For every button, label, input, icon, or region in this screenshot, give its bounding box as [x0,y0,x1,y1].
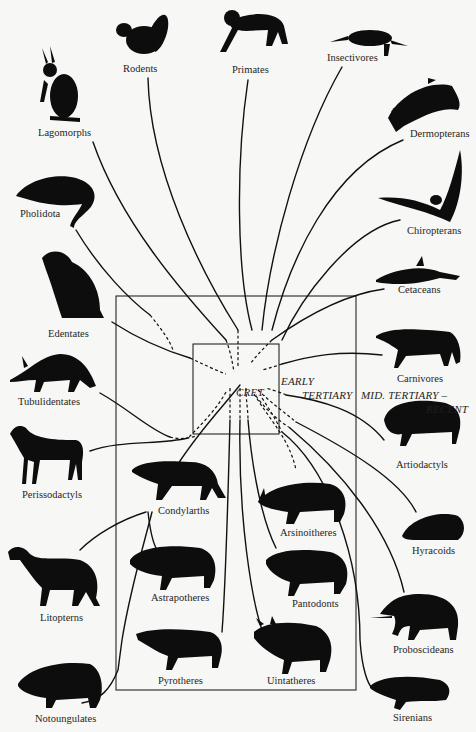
lagomorph-silhouette [40,46,80,122]
label-tubulidentates: Tubulidentates [18,396,80,407]
mammal-radiation-diagram: CRET. EARLY TERTIARY MID. TERTIARY – REC… [0,0,476,732]
label-carnivores: Carnivores [397,373,443,384]
primate-silhouette [220,10,288,52]
label-hyracoids: Hyracoids [412,545,455,556]
dermopteran-silhouette [388,78,460,132]
branch-dermopterans [272,140,403,330]
branch-primates [239,80,252,330]
label-pantodonts: Pantodonts [292,598,339,609]
era-label-early-tertiary-1: EARLY [281,375,314,387]
carnivore-silhouette [376,329,461,368]
label-edentates: Edentates [48,328,89,339]
label-insectivores: Insectivores [327,52,378,63]
label-litopterns: Litopterns [40,612,83,623]
label-sirenians: Sirenians [393,712,432,723]
sirenian-silhouette [370,677,449,710]
litoptern-silhouette [8,547,100,606]
arsinoithere-silhouette [258,483,345,524]
hyracoid-silhouette [402,514,464,540]
branch-astrapotheres [148,512,156,548]
chiropteran-silhouette [378,150,462,222]
label-rodents: Rodents [123,63,157,74]
cetacean-silhouette [376,256,460,284]
label-arsinoitheres: Arsinoitheres [280,527,337,538]
era-label-cretaceous: CRET. [236,386,266,398]
label-condylarths: Condylarths [158,505,209,516]
label-lagomorphs: Lagomorphs [38,127,91,138]
pantodont-silhouette [266,550,347,596]
branch-carnivores [282,353,382,364]
label-perissodactyls: Perissodactyls [22,489,82,500]
astrapothere-silhouette [130,546,215,590]
notoungulate-silhouette [18,663,102,708]
era-label-early-tertiary-2: TERTIARY [302,389,352,401]
label-chiropterans: Chiropterans [407,225,461,236]
branch-insectivores [262,67,342,330]
branch-rodents [148,78,238,330]
proboscidean-silhouette [370,594,458,640]
label-notoungulates: Notoungulates [35,713,96,724]
dash-pholidota [150,315,174,353]
perissodactyl-silhouette [10,426,83,484]
era-label-mid-tertiary-1: MID. TERTIARY – [361,389,447,401]
label-proboscideans: Proboscideans [393,644,454,655]
era-label-mid-tertiary-2: RECENT [426,403,468,415]
label-cetaceans: Cetaceans [398,284,441,295]
label-dermopterans: Dermopterans [410,128,469,139]
branch-pantodonts [248,420,276,548]
label-pholidota: Pholidota [20,208,60,219]
branch-condylarths-root [178,385,240,464]
branch-pyrotheres [222,420,230,632]
edentate-silhouette [42,252,104,318]
branch-artiodactyls [286,395,384,440]
rodent-silhouette [116,15,168,54]
label-uintatheres: Uintatheres [267,675,315,686]
branch-litopterns [80,512,146,550]
branch-lagomorphs [93,142,226,340]
label-artiodactyls: Artiodactyls [396,459,448,470]
condylarth-silhouette [132,461,226,500]
label-primates: Primates [232,64,269,75]
label-astrapotheres: Astrapotheres [151,592,209,603]
branch-cetaceans [272,289,384,340]
branch-perissodactyls [90,438,188,451]
label-pyrotheres: Pyrotheres [158,675,203,686]
pyrothere-silhouette [136,629,222,670]
branch-tubulidentates [100,393,170,437]
tubulidentate-silhouette [10,354,96,392]
uintathere-silhouette [254,616,331,674]
branch-edentates [112,322,190,358]
pholidota-silhouette [16,176,95,228]
